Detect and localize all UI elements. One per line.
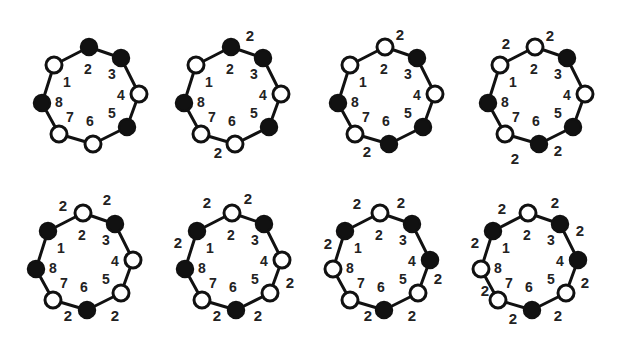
- filled-node-3: [404, 216, 420, 232]
- edge-label: 2: [364, 307, 372, 324]
- site-index-label: 3: [250, 66, 258, 82]
- edge-label: 2: [581, 274, 589, 291]
- filled-node-3: [559, 50, 575, 66]
- site-index-label: 3: [554, 66, 562, 82]
- filled-node-3: [113, 50, 129, 66]
- open-node-2: [224, 205, 240, 221]
- site-index-label: 4: [556, 253, 564, 269]
- site-index-label: 2: [380, 61, 388, 77]
- open-node-4: [274, 252, 290, 268]
- edge-label: 2: [111, 307, 119, 324]
- site-index-label: 1: [63, 74, 71, 90]
- open-node-7: [490, 292, 506, 308]
- site-index-label: 4: [413, 87, 421, 103]
- site-index-label: 2: [523, 227, 531, 243]
- site-index-label: 4: [563, 87, 571, 103]
- site-index-label: 3: [404, 66, 412, 82]
- edge-label: 2: [408, 307, 416, 324]
- open-node-7: [193, 126, 209, 142]
- edge-label: 2: [286, 274, 294, 291]
- open-node-4: [427, 86, 443, 102]
- open-node-2: [377, 39, 393, 55]
- site-index-label: 7: [209, 275, 217, 291]
- ring-diagram-5: 123456782222: [28, 191, 141, 324]
- edge-label: 2: [397, 194, 405, 211]
- site-index-label: 6: [229, 279, 237, 295]
- site-index-label: 5: [250, 105, 258, 121]
- site-index-label: 1: [57, 240, 65, 256]
- edge-label: 2: [353, 195, 361, 212]
- ring-diagram-4: 123456782222: [480, 27, 593, 167]
- site-index-label: 6: [532, 113, 540, 129]
- site-index-label: 4: [117, 87, 125, 103]
- edge-label: 2: [481, 282, 489, 299]
- site-index-label: 6: [86, 113, 94, 129]
- filled-node-6: [524, 302, 540, 318]
- open-node-1: [342, 57, 358, 73]
- site-index-label: 1: [206, 240, 214, 256]
- site-index-label: 6: [228, 113, 236, 129]
- site-index-label: 4: [111, 253, 119, 269]
- filled-node-5: [565, 119, 581, 135]
- edge-label: 2: [498, 200, 506, 217]
- site-index-label: 8: [198, 260, 206, 276]
- filled-node-6: [228, 302, 244, 318]
- site-index-label: 3: [399, 232, 407, 248]
- ring-diagram-3: 1234567822: [330, 26, 443, 160]
- open-node-7: [342, 292, 358, 308]
- edge-label: 2: [363, 143, 371, 160]
- site-index-label: 5: [547, 271, 555, 287]
- site-index-label: 1: [509, 74, 517, 90]
- ring-diagram-1: 12345678: [34, 39, 147, 152]
- open-node-5: [113, 285, 129, 301]
- edge-label: 2: [502, 35, 510, 52]
- open-node-1: [188, 57, 204, 73]
- edge-label: 2: [174, 234, 182, 251]
- open-node-5: [262, 285, 278, 301]
- edge-label: 2: [254, 307, 262, 324]
- open-node-4: [577, 86, 593, 102]
- open-node-2: [527, 39, 543, 55]
- site-index-label: 5: [108, 105, 116, 121]
- diagram-figure: 1234567812345678221234567822123456782222…: [0, 0, 621, 340]
- site-index-label: 4: [260, 253, 268, 269]
- edge-label: 2: [546, 27, 554, 44]
- open-node-7: [51, 126, 67, 142]
- site-index-label: 4: [408, 253, 416, 269]
- site-index-label: 8: [351, 94, 359, 110]
- filled-node-1: [189, 223, 205, 239]
- site-index-label: 3: [547, 232, 555, 248]
- site-index-label: 5: [399, 271, 407, 287]
- filled-node-8: [34, 95, 50, 111]
- ring-diagram-6: 12345678222222: [174, 190, 294, 324]
- site-index-label: 2: [530, 61, 538, 77]
- open-node-4: [131, 86, 147, 102]
- open-node-5: [558, 285, 574, 301]
- filled-node-3: [107, 216, 123, 232]
- open-node-2: [75, 205, 91, 221]
- filled-node-8: [480, 95, 496, 111]
- site-index-label: 8: [501, 94, 509, 110]
- site-index-label: 6: [377, 279, 385, 295]
- filled-node-6: [79, 302, 95, 318]
- filled-node-5: [415, 119, 431, 135]
- filled-node-5: [261, 119, 277, 135]
- site-index-label: 2: [375, 227, 383, 243]
- edge-label: 2: [511, 150, 519, 167]
- edge-label: 2: [203, 194, 211, 211]
- filled-node-4: [422, 252, 438, 268]
- site-index-label: 7: [66, 109, 74, 125]
- site-index-label: 3: [108, 66, 116, 82]
- site-index-label: 7: [60, 275, 68, 291]
- filled-node-8: [177, 261, 193, 277]
- site-index-label: 7: [208, 109, 216, 125]
- filled-node-6: [531, 136, 547, 152]
- open-node-1: [46, 57, 62, 73]
- filled-node-4: [570, 252, 586, 268]
- open-node-8: [325, 261, 341, 277]
- edge-label: 2: [103, 191, 111, 208]
- open-node-2: [372, 205, 388, 221]
- edge-label: 2: [576, 222, 584, 239]
- filled-node-2: [223, 39, 239, 55]
- open-node-1: [492, 57, 508, 73]
